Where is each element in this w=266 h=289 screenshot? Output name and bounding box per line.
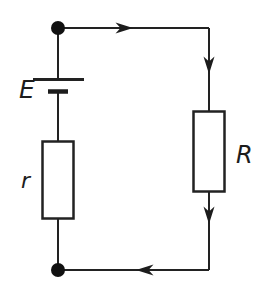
circuit-diagram: E r R xyxy=(0,0,266,289)
junction-dot-top xyxy=(51,21,65,35)
external-resistor-box xyxy=(194,112,225,192)
junction-dot-bottom xyxy=(51,263,65,277)
circuit-svg: E r R xyxy=(0,0,266,289)
internal-resistance-label: r xyxy=(21,168,32,193)
emf-label: E xyxy=(19,75,35,104)
external-resistance-label: R xyxy=(236,141,253,169)
internal-resistor-box xyxy=(43,142,74,219)
